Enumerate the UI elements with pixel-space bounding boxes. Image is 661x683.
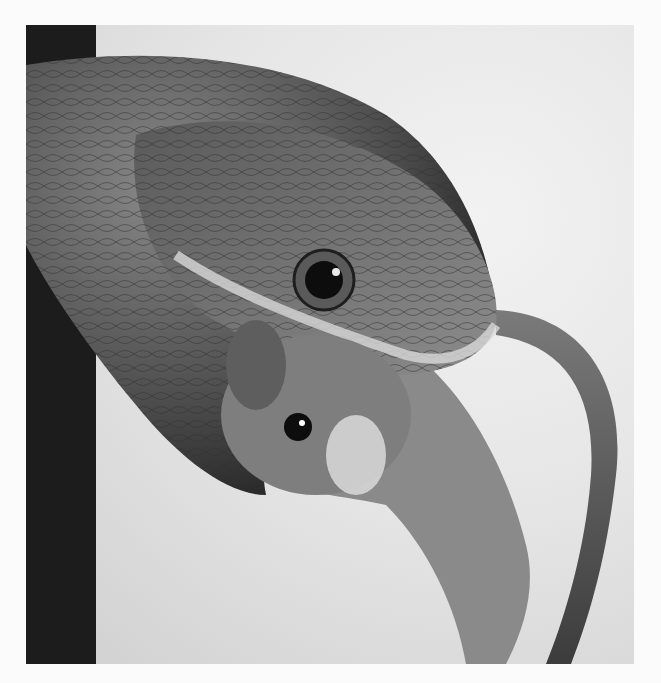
mouse-eye <box>284 413 312 441</box>
photograph <box>26 25 634 664</box>
mouse-snout <box>326 415 386 495</box>
snake-eye <box>305 261 343 299</box>
snake-and-mouse-illustration <box>26 25 634 664</box>
mouse-eye-highlight <box>299 420 305 426</box>
mouse-ear <box>226 320 286 410</box>
snake-eye-highlight <box>332 268 340 276</box>
